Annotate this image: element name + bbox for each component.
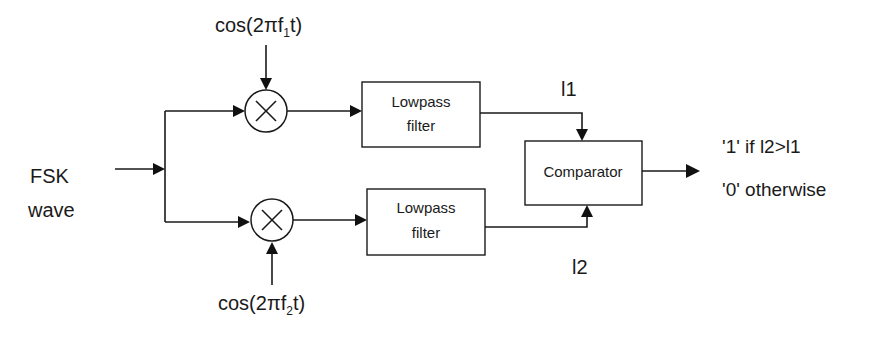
carrier-upper-label: cos(2πf1t) [215,14,302,40]
output-rule-line1: '1' if l2>l1 [722,136,801,157]
mixer-lower [251,199,293,241]
output-rule-line2: '0' otherwise [722,179,826,200]
signal-label-l2: l2 [572,256,588,278]
comparator-block: Comparator [525,141,642,205]
input-label-line1: FSK [30,165,70,187]
fsk-demodulator-diagram: FSK wave cos(2πf1t) cos(2πf2t) [0,0,896,339]
input-label-line2: wave [27,199,75,221]
svg-text:filter: filter [407,117,435,134]
lowpass-filter-upper: Lowpass filter [362,82,480,147]
svg-text:Comparator: Comparator [543,163,622,180]
mixer-upper [245,90,287,132]
filter-lower-to-comparator-arrow [485,205,593,227]
lower-input-arrow [165,216,250,228]
svg-text:filter: filter [412,224,440,241]
carrier-lower-label: cos(2πf2t) [218,292,305,318]
input-arrow [115,163,165,175]
carrier-lower-arrow [266,242,278,285]
lowpass-filter-lower: Lowpass filter [367,189,485,255]
svg-text:Lowpass: Lowpass [391,93,450,110]
signal-label-l1: l1 [561,78,577,100]
output-arrow [642,164,700,178]
svg-text:Lowpass: Lowpass [396,199,455,216]
carrier-upper-arrow [260,45,272,90]
mixer-to-filter-upper-arrow [287,105,362,117]
mixer-to-filter-lower-arrow [293,214,367,226]
filter-upper-to-comparator-arrow [480,113,588,141]
upper-input-arrow [165,105,245,117]
